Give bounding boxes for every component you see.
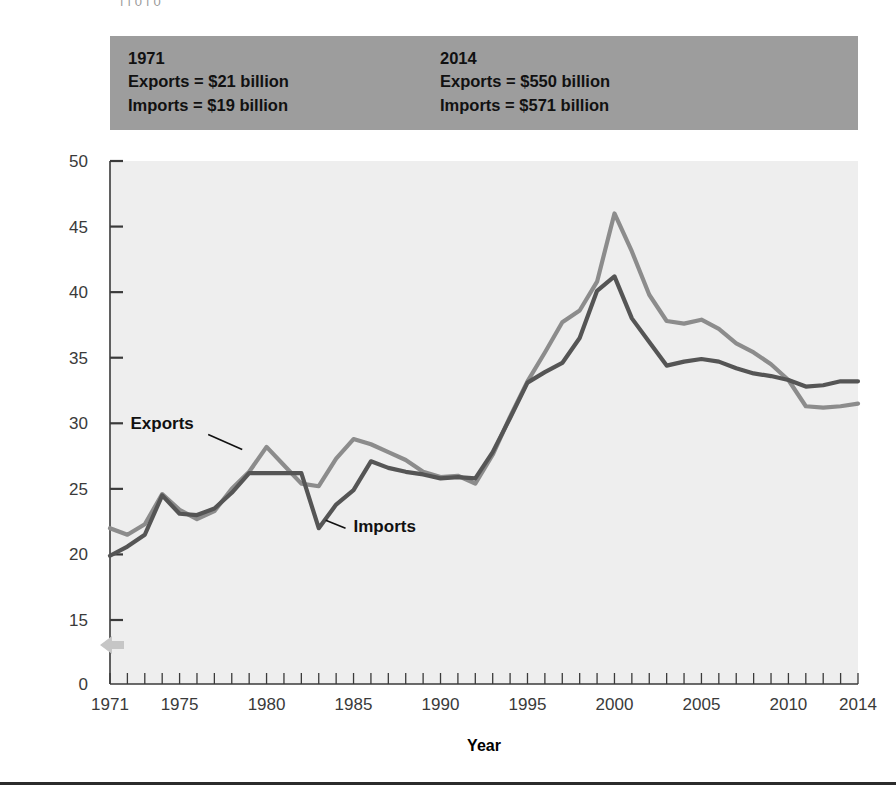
y-axis-tick-label: 30 [69, 414, 88, 433]
callout-2014-imports: Imports = $571 billion [440, 94, 610, 117]
callout-column-1971: 1971 Exports = $21 billion Imports = $19… [128, 47, 289, 117]
footer-divider [0, 782, 896, 785]
callout-1971-exports: Exports = $21 billion [128, 70, 289, 93]
x-axis-tick-label: 2005 [683, 695, 721, 714]
figure-container: | | 0 | 0 1971 Exports = $21 billion Imp… [0, 0, 896, 797]
x-axis-tick-label: 1985 [335, 695, 373, 714]
callout-column-2014: 2014 Exports = $550 billion Imports = $5… [440, 47, 610, 117]
y-axis-tick-label: 50 [69, 152, 88, 171]
callout-banner: 1971 Exports = $21 billion Imports = $19… [110, 36, 858, 130]
x-axis-title: Year [110, 737, 858, 755]
y-axis-title: Percentage of GDP [0, 300, 40, 600]
x-axis-tick-label: 2014 [839, 695, 877, 714]
y-axis-tick-label: 40 [69, 283, 88, 302]
clipped-caption-text: | | 0 | 0 [120, 0, 880, 6]
x-axis-tick-label: 1995 [509, 695, 547, 714]
exports-callout: Exports [131, 414, 194, 433]
callout-2014-year: 2014 [440, 47, 610, 70]
y-axis-tick-label: 15 [69, 611, 88, 630]
x-axis-tick-label: 1971 [91, 695, 129, 714]
x-axis-tick-label: 1975 [161, 695, 199, 714]
x-axis-tick-label: 2010 [770, 695, 808, 714]
callout-1971-imports: Imports = $19 billion [128, 94, 289, 117]
imports-callout: Imports [354, 517, 416, 536]
callout-1971-year: 1971 [128, 47, 289, 70]
plot-area [110, 161, 858, 684]
y-axis-tick-label: 45 [69, 218, 88, 237]
y-axis-tick-label: 20 [69, 545, 88, 564]
callout-2014-exports: Exports = $550 billion [440, 70, 610, 93]
y-axis-tick-label: 25 [69, 480, 88, 499]
x-axis-tick-label: 1980 [248, 695, 286, 714]
y-axis-tick-label: 0 [79, 675, 88, 694]
x-axis-tick-label: 1990 [422, 695, 460, 714]
y-axis-tick-label: 35 [69, 349, 88, 368]
x-axis-tick-label: 2000 [596, 695, 634, 714]
